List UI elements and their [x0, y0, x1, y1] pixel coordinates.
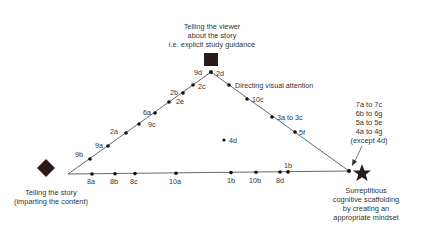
point-directing — [227, 83, 231, 87]
point-10c — [245, 97, 249, 101]
left-edge-points: 9b 9a 2a 9c 6a 2e 2b 2c 9d — [75, 68, 206, 161]
label-3a-to-3c: 3a to 3c — [277, 113, 303, 122]
annotation-line-3: 5a to 5e — [356, 118, 383, 127]
right-vertex-point — [347, 169, 351, 173]
point-8b — [113, 172, 117, 176]
label-9c: 9c — [148, 120, 156, 129]
apex-point — [209, 70, 213, 74]
annotation-line-2: 6b to 6g — [356, 109, 383, 118]
top-caption-line-3: i.e. explicit study guidance — [169, 40, 255, 49]
annotation-line-5: (except 4d) — [351, 136, 388, 145]
point-1b — [229, 171, 233, 175]
right-vertex-caption: Surreptitious cognitive scaffolding by c… — [333, 186, 399, 222]
left-caption-line-2: (imparting the content) — [14, 197, 88, 206]
point-9a — [106, 144, 110, 148]
right-caption-line-4: appropriate mindset — [333, 213, 398, 222]
label-2e: 2e — [176, 97, 184, 106]
point-9c — [137, 122, 141, 126]
left-caption-line-1: Telling the story — [25, 188, 77, 197]
label-9a: 9a — [95, 141, 103, 150]
square-icon — [204, 53, 218, 66]
label-9b: 9b — [75, 150, 83, 159]
diamond-icon — [37, 159, 55, 177]
label-4d: 4d — [229, 136, 237, 145]
base-edge — [68, 171, 349, 174]
label-9d: 9d — [194, 68, 202, 77]
top-caption-line-2: about the story — [188, 31, 237, 40]
left-vertex-caption: Telling the story (imparting the content… — [14, 188, 88, 206]
point-3a-3c — [270, 115, 274, 119]
point-10b — [254, 171, 258, 175]
point-5f — [293, 130, 297, 134]
label-2d: 2d — [216, 69, 224, 78]
triangle-diagram: 9b 9a 2a 9c 6a 2e 2b 2c 9d 2d Directing … — [0, 0, 423, 235]
top-vertex-caption: Telling the viewer about the story i.e. … — [169, 22, 255, 49]
point-6a — [153, 111, 157, 115]
point-8c — [133, 172, 137, 176]
point-2a — [124, 131, 128, 135]
point-2e — [167, 100, 171, 104]
label-8b: 8b — [110, 177, 118, 186]
label-2b: 2b — [170, 88, 178, 97]
annotation-line-4: 4a to 4g — [356, 127, 383, 136]
point-10a — [174, 171, 178, 175]
label-5f: 5f — [299, 128, 305, 137]
label-6a: 6a — [143, 108, 151, 117]
label-8c: 8c — [130, 177, 138, 186]
label-8d: 8d — [276, 176, 284, 185]
point-1b-2 — [286, 170, 290, 174]
label-2c: 2c — [198, 82, 206, 91]
arrowhead-icon — [352, 159, 357, 166]
label-1b: 1b — [227, 176, 235, 185]
label-8a: 8a — [87, 177, 95, 186]
point-2c — [191, 83, 195, 87]
label-directing-visual-attention: Directing visual attention — [235, 81, 313, 90]
label-2a: 2a — [110, 127, 118, 136]
right-caption-line-3: by creating an — [343, 204, 389, 213]
label-10c: 10c — [252, 95, 264, 104]
label-10b: 10b — [249, 176, 261, 185]
right-caption-line-2: cognitive scaffolding — [333, 195, 399, 204]
label-1b-2: 1b — [284, 161, 292, 170]
point-4d — [222, 138, 225, 141]
annotation-line-1: 7a to 7c — [356, 100, 383, 109]
annotation-arrow — [354, 146, 362, 163]
top-caption-line-1: Telling the viewer — [184, 22, 241, 31]
point-8d — [278, 170, 282, 174]
right-edge-points: 2d Directing visual attention 10c 3a to … — [216, 69, 313, 137]
label-10a: 10a — [169, 177, 181, 186]
point-8a — [90, 172, 94, 176]
right-caption-line-1: Surreptitious — [345, 186, 387, 195]
star-icon — [353, 164, 371, 181]
point-2b — [181, 91, 185, 95]
right-annotation: 7a to 7c 6b to 6g 5a to 5e 4a to 4g (exc… — [351, 100, 388, 145]
point-9b — [88, 157, 92, 161]
